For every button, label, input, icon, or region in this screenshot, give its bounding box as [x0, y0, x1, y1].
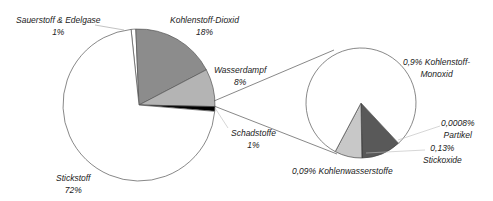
- label-wasserdampf: Wasserdampf 8%: [214, 64, 266, 88]
- label-co2: Kohlenstoff-Dioxid 18%: [170, 14, 239, 38]
- label-schadstoffe-pct: 1%: [231, 139, 276, 151]
- label-sauerstoff-name: Sauerstoff & Edelgase: [16, 14, 101, 26]
- label-stickoxide-line2: Stickoxide: [423, 154, 462, 166]
- label-co2-name: Kohlenstoff-Dioxid: [170, 14, 239, 26]
- label-partikel-line2: Partikel: [441, 129, 475, 141]
- label-hc-line1: 0,09% Kohlenwasserstoffe: [292, 165, 393, 177]
- label-schadstoffe: Schadstoffe 1%: [231, 127, 276, 151]
- label-co-line2: Monoxid: [403, 68, 470, 80]
- label-partikel-line1: 0,0008%: [441, 117, 475, 129]
- main-pie: [63, 29, 215, 181]
- label-stickstoff-name: Stickstoff: [56, 172, 90, 184]
- pie-of-pie-chart: Sauerstoff & Edelgase 1% Kohlenstoff-Dio…: [0, 0, 493, 201]
- label-stickoxide-line1: 0,13%: [423, 142, 462, 154]
- label-sauerstoff-pct: 1%: [16, 26, 101, 38]
- secondary-pie: [306, 48, 416, 158]
- label-schadstoffe-name: Schadstoffe: [231, 127, 276, 139]
- label-co-line1: 0,9% Kohlenstoff-: [403, 56, 470, 68]
- label-stickoxide: 0,13% Stickoxide: [423, 142, 462, 166]
- label-wasserdampf-name: Wasserdampf: [214, 64, 266, 76]
- label-sauerstoff: Sauerstoff & Edelgase 1%: [16, 14, 101, 38]
- label-stickstoff: Stickstoff 72%: [56, 172, 90, 196]
- label-partikel: 0,0008% Partikel: [441, 117, 475, 141]
- label-co: 0,9% Kohlenstoff- Monoxid: [403, 56, 470, 80]
- label-wasserdampf-pct: 8%: [214, 76, 266, 88]
- label-co2-pct: 18%: [170, 26, 239, 38]
- label-hc: 0,09% Kohlenwasserstoffe: [292, 165, 393, 177]
- label-stickstoff-pct: 72%: [56, 184, 90, 196]
